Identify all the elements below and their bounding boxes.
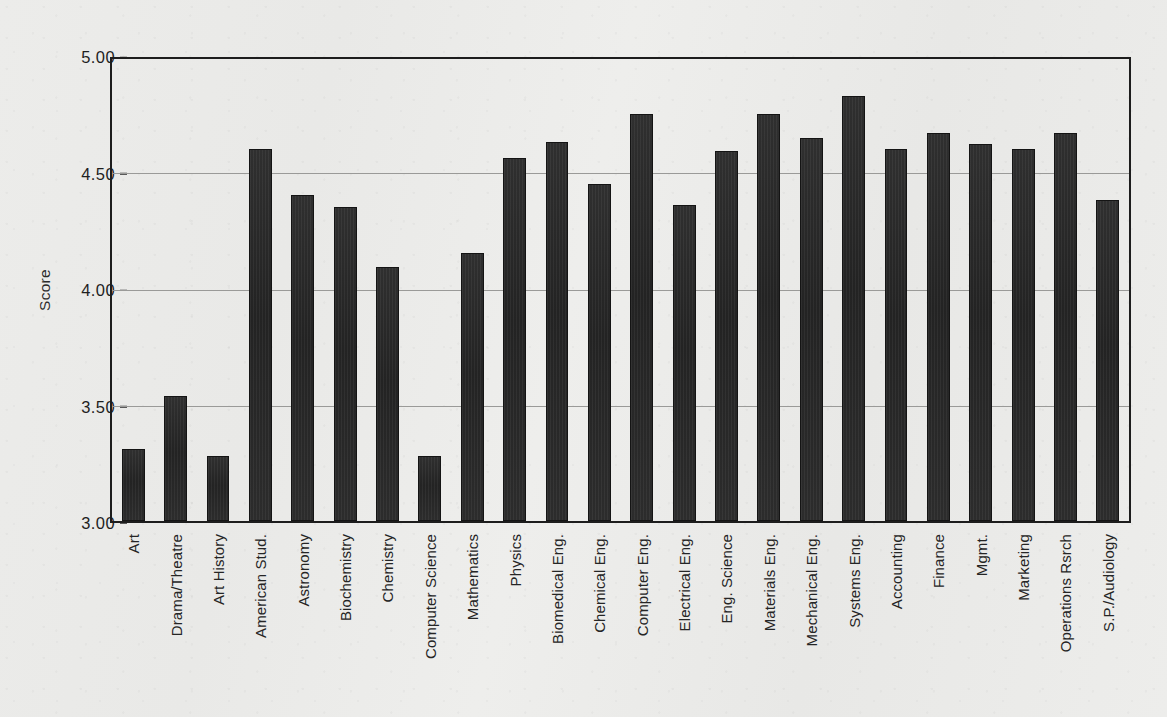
bar-slot: [748, 59, 790, 521]
chart-page: Score 5.004.504.003.503.00 ArtDrama/Thea…: [0, 0, 1167, 717]
bar[interactable]: [461, 253, 484, 521]
bar-slot: [536, 59, 578, 521]
x-axis-tick-label: Finance: [930, 534, 947, 588]
bar-slot: [451, 59, 493, 521]
bar[interactable]: [503, 158, 526, 521]
x-axis-tick-slot: Finance: [917, 528, 959, 708]
bar[interactable]: [1054, 133, 1077, 521]
x-axis-tick-slot: Drama/Theatre: [154, 528, 196, 708]
x-axis-tick-slot: Biochemistry: [324, 528, 366, 708]
x-axis-tick-slot: Chemical Eng.: [578, 528, 620, 708]
y-axis-tick-label: 3.50: [45, 397, 115, 416]
bar-slot: [493, 59, 535, 521]
x-axis-tick-label: Mechanical Eng.: [803, 534, 820, 646]
x-axis-tick-label: Chemical Eng.: [591, 534, 608, 633]
bar-slot: [197, 59, 239, 521]
bar[interactable]: [800, 138, 823, 521]
y-axis-tick-label: 4.00: [45, 281, 115, 300]
x-axis-tick-slot: Astronomy: [282, 528, 324, 708]
x-axis-tick-label: Computer Science: [421, 534, 438, 659]
x-axis-tick-label: Drama/Theatre: [167, 534, 184, 636]
x-axis-tick-label: Biochemistry: [337, 534, 354, 621]
bar[interactable]: [207, 456, 230, 521]
x-axis-tick-slot: Eng. Science: [705, 528, 747, 708]
bar-slot: [1087, 59, 1129, 521]
x-axis-tick-slot: American Stud.: [239, 528, 281, 708]
x-axis-tick-label: Systems Eng.: [845, 534, 862, 628]
bar[interactable]: [630, 114, 653, 521]
bar-slot: [917, 59, 959, 521]
bar-slot: [960, 59, 1002, 521]
x-axis-tick-slot: Computer Eng.: [621, 528, 663, 708]
bar-slot: [621, 59, 663, 521]
x-axis-tick-label: Electrical Eng.: [676, 534, 693, 631]
x-axis-tick-slot: Marketing: [1002, 528, 1044, 708]
x-axis-tick-label: Art History: [209, 534, 226, 605]
x-axis-tick-slot: Chemistry: [366, 528, 408, 708]
bar-slot: [1002, 59, 1044, 521]
x-axis-tick-label: Physics: [506, 534, 523, 586]
y-axis-tick-label: 5.00: [45, 48, 115, 67]
x-axis-tick-label: S.P./Audiology: [1099, 534, 1116, 632]
bar[interactable]: [376, 267, 399, 521]
x-axis-tick-slot: Physics: [493, 528, 535, 708]
x-axis-tick-label: Biomedical Eng.: [548, 534, 565, 644]
x-axis-tick-label: Astronomy: [294, 534, 311, 607]
bar-slot: [282, 59, 324, 521]
x-axis-tick-label: Materials Eng.: [760, 534, 777, 631]
bar[interactable]: [969, 144, 992, 521]
bar[interactable]: [122, 449, 145, 521]
x-axis-tick-label: American Stud.: [252, 534, 269, 638]
x-axis-tick-label: Mgmt.: [972, 534, 989, 576]
bar[interactable]: [885, 149, 908, 521]
bar-slot: [324, 59, 366, 521]
x-axis-tick-labels: ArtDrama/TheatreArt HistoryAmerican Stud…: [112, 528, 1129, 708]
x-axis-tick-slot: Mathematics: [451, 528, 493, 708]
x-axis-tick-slot: Art: [112, 528, 154, 708]
x-axis-tick-slot: Mgmt.: [960, 528, 1002, 708]
x-axis-tick-slot: Operations Rsrch: [1044, 528, 1086, 708]
bar[interactable]: [291, 195, 314, 521]
x-axis-tick-label: Computer Eng.: [633, 534, 650, 636]
bar[interactable]: [418, 456, 441, 521]
x-axis-tick-label: Eng. Science: [718, 534, 735, 624]
bar[interactable]: [1012, 149, 1035, 521]
x-axis-tick-slot: Art History: [197, 528, 239, 708]
bar[interactable]: [164, 396, 187, 521]
x-axis-tick-slot: Materials Eng.: [748, 528, 790, 708]
bar-slot: [409, 59, 451, 521]
bar[interactable]: [715, 151, 738, 521]
bar[interactable]: [842, 96, 865, 521]
bar-series: [112, 59, 1129, 521]
bar[interactable]: [546, 142, 569, 521]
bar-slot: [112, 59, 154, 521]
bar[interactable]: [249, 149, 272, 521]
bar-slot: [832, 59, 874, 521]
x-axis-tick-slot: Electrical Eng.: [663, 528, 705, 708]
bar-slot: [578, 59, 620, 521]
bar-slot: [790, 59, 832, 521]
x-axis-tick-slot: S.P./Audiology: [1087, 528, 1129, 708]
bar-slot: [366, 59, 408, 521]
bar-slot: [875, 59, 917, 521]
x-axis-tick-slot: Biomedical Eng.: [536, 528, 578, 708]
x-axis-tick-label: Marketing: [1015, 534, 1032, 601]
x-axis-tick-label: Accounting: [887, 534, 904, 609]
x-axis-tick-slot: Accounting: [875, 528, 917, 708]
bar[interactable]: [588, 184, 611, 521]
bar-slot: [1044, 59, 1086, 521]
bar[interactable]: [673, 205, 696, 521]
bar[interactable]: [757, 114, 780, 521]
x-axis-tick-slot: Mechanical Eng.: [790, 528, 832, 708]
bar[interactable]: [334, 207, 357, 521]
x-axis-tick-label: Art: [125, 534, 142, 553]
x-axis-tick-slot: Systems Eng.: [832, 528, 874, 708]
bar-slot: [705, 59, 747, 521]
x-axis-tick-slot: Computer Science: [409, 528, 451, 708]
bar-slot: [663, 59, 705, 521]
bar-slot: [154, 59, 196, 521]
x-axis-tick-label: Chemistry: [379, 534, 396, 602]
bar-slot: [239, 59, 281, 521]
bar[interactable]: [927, 133, 950, 521]
bar[interactable]: [1096, 200, 1119, 521]
